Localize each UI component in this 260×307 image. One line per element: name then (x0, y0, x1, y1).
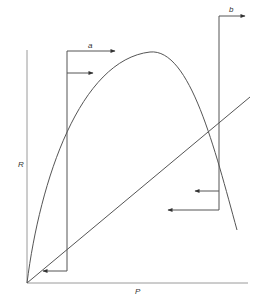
bracket-a-label: a (88, 41, 93, 50)
bracket-b: b (168, 5, 245, 210)
x-axis-label: P (135, 287, 141, 296)
bracket-b-label: b (229, 5, 234, 14)
y-axis-label: R (18, 160, 24, 169)
diagram-canvas: R P a b (0, 0, 260, 307)
replacement-line (27, 97, 250, 283)
r-curve (27, 52, 237, 283)
